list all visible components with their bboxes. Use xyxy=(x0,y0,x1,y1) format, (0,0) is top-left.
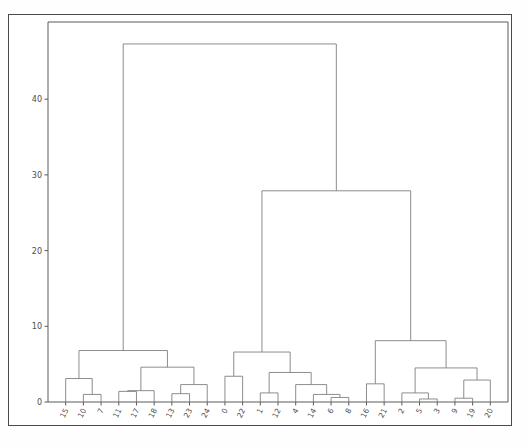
plot-area: 0102030401510711171813232402211241468162… xyxy=(0,0,528,447)
y-tick-label: 30 xyxy=(32,171,42,180)
y-tick-label: 10 xyxy=(32,322,42,331)
dendrogram-link xyxy=(313,394,340,402)
x-tick-label: 8 xyxy=(343,407,353,416)
dendrogram-svg: 0102030401510711171813232402211241468162… xyxy=(0,0,528,447)
y-tick-label: 0 xyxy=(37,398,42,407)
dendrogram-link xyxy=(366,384,384,402)
x-tick-label: 0 xyxy=(219,407,229,416)
x-tick-label: 19 xyxy=(465,407,478,420)
dendrogram-link xyxy=(375,341,446,384)
x-tick-label: 5 xyxy=(414,407,424,416)
dendrogram-link xyxy=(296,385,327,402)
dendrogram-link xyxy=(141,367,194,390)
dendrogram-link xyxy=(260,393,278,402)
x-tick-label: 9 xyxy=(449,407,459,416)
dendrogram-link xyxy=(464,380,491,402)
dendrogram-link xyxy=(79,351,167,379)
x-tick-label: 24 xyxy=(200,407,213,420)
dendrogram-link xyxy=(83,394,101,402)
y-tick-label: 40 xyxy=(32,95,42,104)
dendrogram-links xyxy=(66,44,491,402)
dendrogram-link xyxy=(269,372,311,392)
x-tick-label: 2 xyxy=(396,407,406,416)
x-tick-label: 12 xyxy=(270,407,283,420)
dendrogram-link xyxy=(331,397,349,402)
dendrogram-figure: 0102030401510711171813232402211241468162… xyxy=(0,0,528,447)
y-tick-label: 20 xyxy=(32,247,42,256)
x-tick-label: 17 xyxy=(129,407,142,420)
dendrogram-link xyxy=(172,394,190,402)
dendrogram-link xyxy=(225,376,243,402)
x-tick-label: 6 xyxy=(326,407,336,416)
dendrogram-link xyxy=(262,191,411,352)
x-tick-label: 21 xyxy=(376,407,389,420)
x-tick-label: 23 xyxy=(182,407,195,420)
dendrogram-link xyxy=(119,391,137,402)
x-tick-label: 1 xyxy=(255,407,265,416)
x-tick-label: 10 xyxy=(76,407,89,420)
x-tick-label: 15 xyxy=(58,407,71,420)
x-tick-label: 11 xyxy=(111,407,124,420)
dendrogram-link xyxy=(66,379,93,402)
x-tick-label: 13 xyxy=(164,407,177,420)
x-tick-label: 20 xyxy=(483,407,496,420)
x-tick-label: 22 xyxy=(235,407,248,420)
x-tick-label: 7 xyxy=(96,407,106,416)
x-tick-label: 18 xyxy=(146,407,159,420)
dendrogram-link xyxy=(402,393,429,402)
x-tick-label: 16 xyxy=(359,407,372,420)
x-tick-label: 14 xyxy=(306,407,319,420)
dendrogram-link xyxy=(128,391,155,402)
dendrogram-link xyxy=(123,44,336,351)
x-tick-label: 3 xyxy=(432,407,442,416)
x-tick-label: 4 xyxy=(290,407,300,416)
dendrogram-link xyxy=(455,398,473,402)
